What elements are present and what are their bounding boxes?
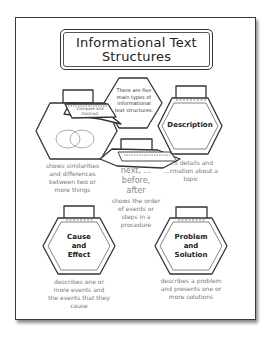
intro-text: There are five main types of information… — [112, 87, 156, 113]
compare-tab — [63, 90, 93, 103]
cause-effect-label-3: Effect — [54, 251, 104, 259]
compare-description: shows similarities and differences betwe… — [45, 162, 100, 194]
problem-solution-label-3: Solution — [166, 251, 216, 259]
cause-effect-description: describes one or more events and the eve… — [48, 278, 110, 310]
description-description: ...s details and ...rmation about a topi… — [162, 159, 220, 183]
problem-solution-description: describes a problem and presents one or … — [158, 277, 224, 301]
compare-flap-label: Compare and Contrast — [70, 106, 110, 116]
problem-solution-label-2: and — [166, 242, 216, 250]
cause-effect-label-2: and — [54, 242, 104, 250]
sequence-keyword-3: after — [112, 186, 160, 196]
sequence-keyword-1: next, ... — [112, 166, 160, 176]
sequence-description: shows the order of events or steps in a … — [110, 197, 162, 229]
description-label: Description — [160, 121, 220, 129]
sequence-keyword-2: before, — [112, 176, 160, 186]
cause-effect-label-1: Cause — [54, 233, 104, 241]
problem-solution-label-1: Problem — [166, 233, 216, 241]
